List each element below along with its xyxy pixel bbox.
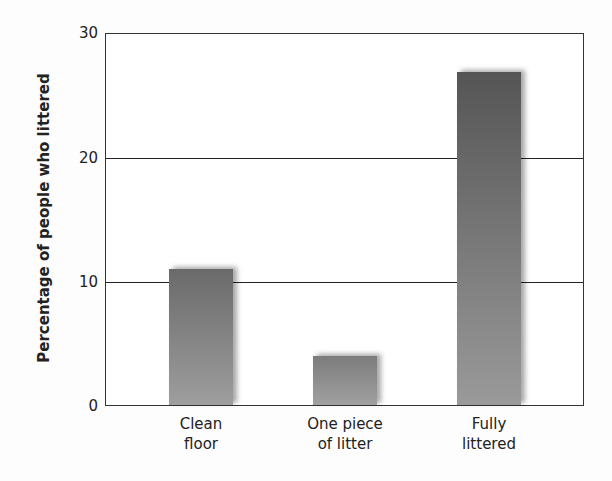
x-label-line: of litter xyxy=(285,434,405,454)
y-tick-20: 20 xyxy=(58,151,98,166)
y-tick-0: 0 xyxy=(58,399,98,414)
x-label-one-piece: One piece of litter xyxy=(285,414,405,454)
x-label-line: Clean xyxy=(141,414,261,434)
plot-area xyxy=(105,33,584,406)
bar-fully-littered xyxy=(457,72,521,405)
y-tick-10: 10 xyxy=(58,275,98,290)
x-label-line: One piece xyxy=(285,414,405,434)
x-label-line: Fully xyxy=(429,414,549,434)
y-tick-30: 30 xyxy=(58,26,98,41)
x-label-clean-floor: Clean floor xyxy=(141,414,261,454)
bar-clean-floor xyxy=(169,269,233,405)
bar-one-piece-of-litter xyxy=(313,356,377,405)
x-label-line: littered xyxy=(429,434,549,454)
x-label-fully-littered: Fully littered xyxy=(429,414,549,454)
y-axis-label: Percentage of people who littered xyxy=(35,73,53,362)
x-label-line: floor xyxy=(141,434,261,454)
